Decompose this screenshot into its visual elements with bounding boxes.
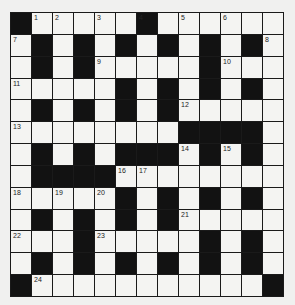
grid-cell[interactable] [53,57,73,78]
grid-cell[interactable]: 13 [11,122,31,143]
grid-cell[interactable] [221,166,241,187]
grid-cell[interactable] [32,79,52,100]
grid-cell[interactable] [137,35,157,56]
grid-cell[interactable] [221,35,241,56]
grid-cell[interactable] [116,275,136,296]
grid-cell[interactable] [95,144,115,165]
grid-cell[interactable] [11,166,31,187]
grid-cell[interactable] [158,57,178,78]
grid-cell[interactable]: 6 [221,13,241,34]
grid-cell[interactable] [242,13,262,34]
grid-cell[interactable] [158,231,178,252]
grid-cell[interactable] [95,122,115,143]
grid-cell[interactable] [95,35,115,56]
grid-cell[interactable] [116,122,136,143]
grid-cell[interactable] [158,122,178,143]
grid-cell[interactable] [242,100,262,121]
grid-cell[interactable] [242,57,262,78]
grid-cell[interactable] [137,253,157,274]
grid-cell[interactable] [53,79,73,100]
grid-cell[interactable] [95,253,115,274]
grid-cell[interactable]: 7 [11,35,31,56]
grid-cell[interactable] [95,275,115,296]
grid-cell[interactable] [74,122,94,143]
grid-cell[interactable] [74,79,94,100]
grid-cell[interactable] [263,57,283,78]
grid-cell[interactable]: 15 [221,144,241,165]
grid-cell[interactable] [221,188,241,209]
grid-cell[interactable] [263,210,283,231]
grid-cell[interactable] [263,253,283,274]
grid-cell[interactable] [263,100,283,121]
grid-cell[interactable] [116,57,136,78]
grid-cell[interactable] [242,166,262,187]
grid-cell[interactable] [221,231,241,252]
grid-cell[interactable] [74,188,94,209]
grid-cell[interactable] [11,144,31,165]
grid-cell[interactable] [158,275,178,296]
grid-cell[interactable] [53,100,73,121]
grid-cell[interactable]: 3 [95,13,115,34]
grid-cell[interactable] [53,144,73,165]
grid-cell[interactable] [263,13,283,34]
grid-cell[interactable] [179,57,199,78]
grid-cell[interactable] [221,210,241,231]
grid-cell[interactable]: 18 [11,188,31,209]
grid-cell[interactable] [179,79,199,100]
grid-cell[interactable] [11,253,31,274]
grid-cell[interactable]: 9 [95,57,115,78]
grid-cell[interactable] [74,13,94,34]
grid-cell[interactable] [137,79,157,100]
grid-cell[interactable] [221,275,241,296]
grid-cell[interactable]: 19 [53,188,73,209]
grid-cell[interactable] [95,79,115,100]
grid-cell[interactable] [179,166,199,187]
grid-cell[interactable] [53,231,73,252]
grid-cell[interactable] [53,122,73,143]
grid-cell[interactable]: 21 [179,210,199,231]
grid-cell[interactable] [263,144,283,165]
grid-cell[interactable] [263,79,283,100]
grid-cell[interactable] [158,166,178,187]
grid-cell[interactable] [221,253,241,274]
grid-cell[interactable] [11,57,31,78]
grid-cell[interactable]: 1 [32,13,52,34]
grid-cell[interactable] [200,275,220,296]
grid-cell[interactable] [32,122,52,143]
grid-cell[interactable]: 20 [95,188,115,209]
grid-cell[interactable] [137,100,157,121]
grid-cell[interactable] [137,188,157,209]
grid-cell[interactable] [53,275,73,296]
grid-cell[interactable] [263,231,283,252]
grid-cell[interactable] [200,13,220,34]
grid-cell[interactable] [179,35,199,56]
grid-cell[interactable]: 11 [11,79,31,100]
grid-cell[interactable] [95,100,115,121]
grid-cell[interactable] [179,188,199,209]
grid-cell[interactable] [32,188,52,209]
grid-cell[interactable] [53,210,73,231]
grid-cell[interactable] [179,253,199,274]
grid-cell[interactable] [137,275,157,296]
grid-cell[interactable] [158,13,178,34]
grid-cell[interactable]: 14 [179,144,199,165]
grid-cell[interactable] [137,231,157,252]
grid-cell[interactable] [179,275,199,296]
grid-cell[interactable] [242,275,262,296]
grid-cell[interactable] [53,253,73,274]
grid-cell[interactable] [32,231,52,252]
grid-cell[interactable] [200,210,220,231]
grid-cell[interactable] [116,13,136,34]
grid-cell[interactable]: 8 [263,35,283,56]
grid-cell[interactable] [137,210,157,231]
grid-cell[interactable]: 10 [221,57,241,78]
grid-cell[interactable] [242,210,262,231]
grid-cell[interactable] [179,231,199,252]
grid-cell[interactable] [95,210,115,231]
grid-cell[interactable] [221,100,241,121]
grid-cell[interactable] [263,122,283,143]
grid-cell[interactable]: 17 [137,166,157,187]
grid-cell[interactable] [11,210,31,231]
grid-cell[interactable] [137,57,157,78]
grid-cell[interactable] [263,166,283,187]
